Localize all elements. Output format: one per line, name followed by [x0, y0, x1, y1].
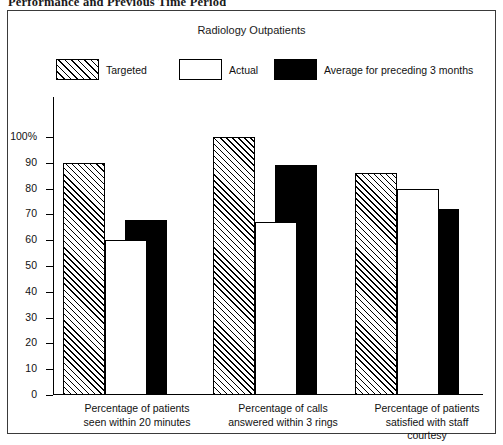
legend-item-targeted: Targeted	[56, 59, 147, 80]
legend-swatch-hatched-icon	[56, 59, 99, 80]
category-label: Percentage of patientssatisfied with sta…	[352, 402, 502, 443]
category-label: Percentage of callsanswered within 3 rin…	[208, 402, 358, 429]
y-axis-tick-label: 40	[25, 285, 37, 298]
bar-targeted	[355, 173, 397, 395]
legend-label-targeted: Targeted	[106, 64, 147, 76]
legend-item-average: Average for preceding 3 months	[274, 59, 473, 80]
legend-swatch-open-icon	[179, 59, 222, 80]
y-axis-tick-label: 60	[25, 233, 37, 246]
category-label-line: courtesy	[352, 429, 502, 443]
bar-targeted	[63, 163, 105, 395]
bar-actual	[105, 240, 147, 395]
category-label-line: answered within 3 rings	[208, 416, 358, 430]
y-axis-tick-label: 30	[25, 311, 37, 324]
category-label-line: Percentage of patients	[352, 402, 502, 416]
y-axis-tick-label: 0	[31, 388, 37, 401]
y-axis-line	[53, 97, 54, 395]
y-axis-tick-label: 20	[25, 336, 37, 349]
y-axis-tick-label: 70	[25, 207, 37, 220]
y-axis-tick: 30	[46, 318, 53, 319]
legend-swatch-solid-icon	[274, 59, 317, 80]
plot-area: 100%9080706050403020100	[53, 97, 483, 395]
y-axis-tick: 100%	[46, 137, 53, 138]
y-axis-tick: 60	[46, 240, 53, 241]
bar-actual	[255, 222, 297, 395]
y-axis-tick: 80	[46, 189, 53, 190]
bar-group	[63, 137, 181, 395]
y-axis-tick: 40	[46, 292, 53, 293]
category-label-line: satisfied with staff	[352, 416, 502, 430]
bar-group	[213, 137, 331, 395]
bar-group	[355, 137, 473, 395]
y-axis-tick-label: 100%	[10, 130, 37, 143]
y-axis-tick: 10	[46, 369, 53, 370]
y-axis-tick: 70	[46, 214, 53, 215]
figure-frame: Radiology Outpatients Targeted Actual Av…	[7, 10, 496, 434]
bar-actual	[397, 189, 439, 395]
category-label-line: Percentage of calls	[208, 402, 358, 416]
y-axis-tick-label: 80	[25, 182, 37, 195]
y-axis-tick: 50	[46, 266, 53, 267]
chart-legend: Targeted Actual Average for preceding 3 …	[8, 59, 495, 85]
category-labels: Percentage of patientsseen within 20 min…	[53, 402, 483, 445]
y-axis-tick-label: 50	[25, 259, 37, 272]
y-axis-tick: 20	[46, 343, 53, 344]
category-label: Percentage of patientsseen within 20 min…	[62, 402, 212, 429]
legend-label-actual: Actual	[229, 64, 258, 76]
y-axis-tick: 0	[46, 395, 53, 396]
bar-targeted	[213, 137, 255, 395]
category-label-line: Percentage of patients	[62, 402, 212, 416]
y-axis-tick-label: 90	[25, 156, 37, 169]
page-heading: Performance and Previous Time Period	[8, 0, 226, 7]
y-axis-tick-label: 10	[25, 362, 37, 375]
chart-title: Radiology Outpatients	[8, 24, 495, 36]
legend-item-actual: Actual	[179, 59, 258, 80]
category-label-line: seen within 20 minutes	[62, 416, 212, 430]
legend-label-average: Average for preceding 3 months	[324, 64, 473, 76]
y-axis-tick: 90	[46, 163, 53, 164]
